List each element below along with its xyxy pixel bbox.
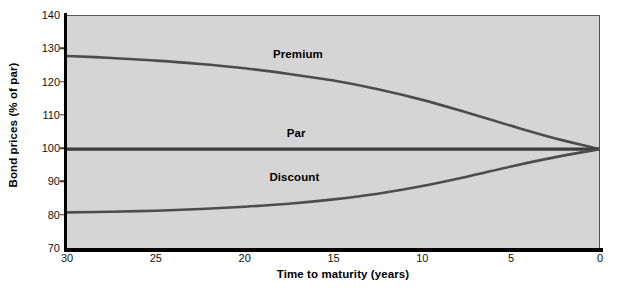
y-axis-spine xyxy=(64,13,67,252)
x-axis-title: Time to maturity (years) xyxy=(0,268,630,280)
y-axis-tick-label: 90 xyxy=(28,175,60,187)
y-axis-title: Bond prices (% of par) xyxy=(2,2,24,248)
x-axis-tick-label: 25 xyxy=(150,252,162,264)
x-axis-title-text: Time to maturity (years) xyxy=(277,268,410,280)
x-axis-tick-label: 10 xyxy=(416,252,428,264)
curve-label-par: Par xyxy=(287,127,306,139)
y-axis-tick-label: 130 xyxy=(28,42,60,54)
curve-label-premium: Premium xyxy=(273,48,323,60)
y-axis-tick-label: 100 xyxy=(28,142,60,154)
plot-area: PremiumParDiscount xyxy=(67,15,600,248)
y-axis-tick-label: 80 xyxy=(28,209,60,221)
y-axis-tick-label: 110 xyxy=(28,109,60,121)
x-axis-tick-labels: 302520151050 xyxy=(0,252,630,268)
y-axis-tick-label: 120 xyxy=(28,76,60,88)
x-axis-tick-label: 15 xyxy=(327,252,339,264)
x-axis-tick-label: 30 xyxy=(61,252,73,264)
y-axis-tick-label: 140 xyxy=(28,9,60,21)
bond-price-convergence-chart: Bond prices (% of par) 70809010011012013… xyxy=(0,0,630,289)
y-axis-tick-labels: 708090100110120130140 xyxy=(28,0,60,289)
curve-premium xyxy=(67,56,600,149)
x-axis-tick-label: 20 xyxy=(239,252,251,264)
curve-label-discount: Discount xyxy=(269,171,319,183)
curve-discount xyxy=(67,149,600,212)
x-axis-tick-label: 0 xyxy=(597,252,603,264)
curve-group xyxy=(67,16,600,249)
x-axis-tick-label: 5 xyxy=(508,252,514,264)
